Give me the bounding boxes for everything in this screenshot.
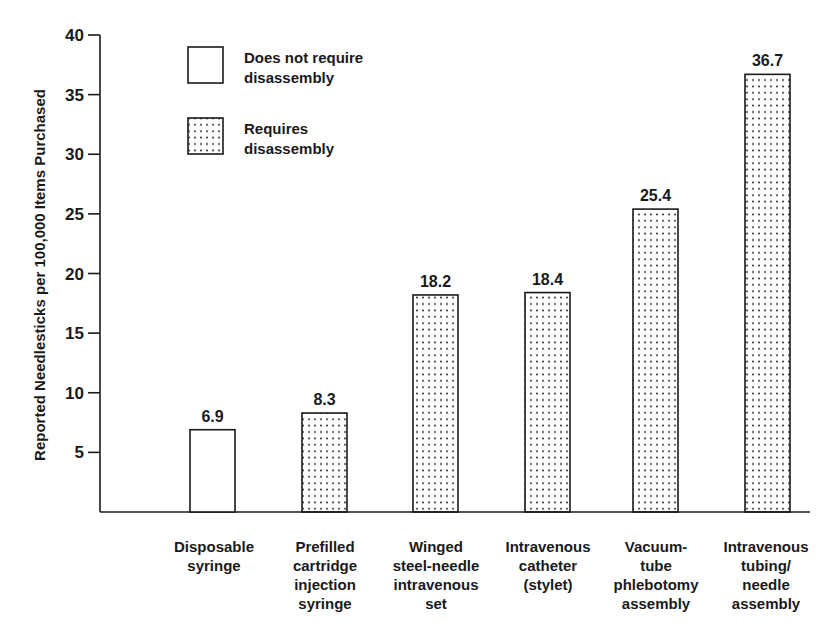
bar-value-label: 25.4 [640,187,671,204]
bar-4: 18.4 [525,271,570,512]
category-label: Wingedsteel-needleintravenousset [393,538,480,612]
bar-blank [190,430,235,512]
y-tick-label: 5 [75,443,84,462]
legend-item-dotted: Requiresdisassembly [188,118,335,157]
bar-value-label: 36.7 [752,52,783,69]
category-label: Disposablesyringe [174,538,254,574]
bar-value-label: 6.9 [201,408,223,425]
legend-swatch-blank [188,47,223,83]
bar-dotted [413,295,458,512]
bar-value-label: 18.4 [532,271,563,288]
category-label: Prefilledcartridgeinjectionsyringe [293,538,357,612]
bar-value-label: 18.2 [420,273,451,290]
category-label: Intravenouscatheter(stylet) [505,538,590,593]
category-label: Intravenoustubing/needleassembly [723,538,808,612]
legend-item-none: Does not requiredisassembly [188,47,363,86]
y-tick-label: 10 [65,384,84,403]
bar-1: 6.9 [190,408,235,512]
legend: Does not requiredisassemblyRequiresdisas… [188,47,363,157]
bar-dotted [745,74,790,512]
legend-label: Does not requiredisassembly [244,49,363,86]
category-labels: DisposablesyringePrefilledcartridgeinjec… [174,538,809,612]
legend-swatch-dotted [188,118,223,154]
bar-dotted [302,413,347,512]
y-tick-label: 20 [65,265,84,284]
y-axis-title: Reported Needlesticks per 100,000 Items … [31,89,48,461]
category-label: Vacuum-tubephlebotomyassembly [614,538,700,612]
y-tick-label: 35 [65,86,84,105]
bar-6: 36.7 [745,52,790,512]
y-tick-label: 15 [65,324,84,343]
bar-2: 8.3 [302,391,347,512]
y-tick-label: 40 [65,26,84,45]
y-tick-label: 25 [65,205,84,224]
needlestick-bar-chart: 510152025303540 6.98.318.218.425.436.7 D… [0,0,832,644]
bar-value-label: 8.3 [313,391,335,408]
bar-dotted [525,293,570,512]
bar-5: 25.4 [633,187,678,512]
bar-3: 18.2 [413,273,458,512]
legend-label: Requiresdisassembly [244,120,335,157]
y-tick-label: 30 [65,145,84,164]
y-axis: 510152025303540 [65,26,100,512]
bar-dotted [633,209,678,512]
